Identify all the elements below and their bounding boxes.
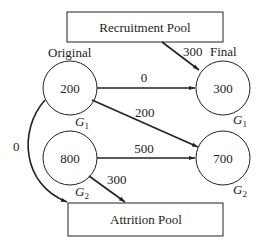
node-value: 700 [213,151,233,166]
node-final-g2: 700 G2 [196,131,250,199]
edge-recruitment-to-final-g1: 300 [162,42,203,70]
edge-flow-label: 0 [141,70,148,85]
attrition-flow-diagram: Recruitment Pool Attrition Pool Original… [0,0,263,248]
group-label: G1 [233,112,247,129]
edge-orig-g2-to-attrition: 300 [89,172,127,202]
node-original-g1: 200 G1 [43,61,97,131]
attrition-pool-box: Attrition Pool [68,203,223,236]
group-label: G2 [233,182,247,199]
edge-flow-label: 500 [134,141,154,156]
node-final-g1: 300 G1 [196,61,250,129]
original-column-header: Original [48,45,92,60]
recruitment-pool-box: Recruitment Pool [67,12,223,42]
edge-flow-label: 300 [107,172,127,187]
node-original-g2: 800 G2 [43,131,97,201]
group-label: G1 [75,114,89,131]
group-label: G2 [75,184,89,201]
edge-flow-label: 300 [183,44,203,59]
node-value: 300 [213,81,233,96]
final-column-header: Final [210,44,237,59]
edge-orig-g1-to-final-g1: 0 [97,70,195,88]
node-value: 800 [60,151,80,166]
edge-orig-g1-to-final-g2: 200 [92,100,198,147]
edge-orig-g2-to-final-g2: 500 [97,141,195,158]
edge-flow-label: 0 [13,139,20,154]
attrition-pool-label: Attrition Pool [110,212,182,227]
recruitment-pool-label: Recruitment Pool [99,20,191,35]
edge-flow-label: 200 [135,105,155,120]
node-value: 200 [60,81,80,96]
